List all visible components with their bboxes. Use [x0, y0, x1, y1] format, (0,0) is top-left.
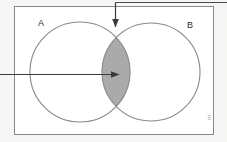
set-a-label: A [38, 18, 44, 28]
venn-diagram-canvas: A B [0, 0, 227, 142]
set-b-label: B [187, 20, 193, 30]
venn-diagram-figure: A B ш [0, 0, 227, 142]
corner-watermark-glyph: ш [203, 115, 213, 129]
